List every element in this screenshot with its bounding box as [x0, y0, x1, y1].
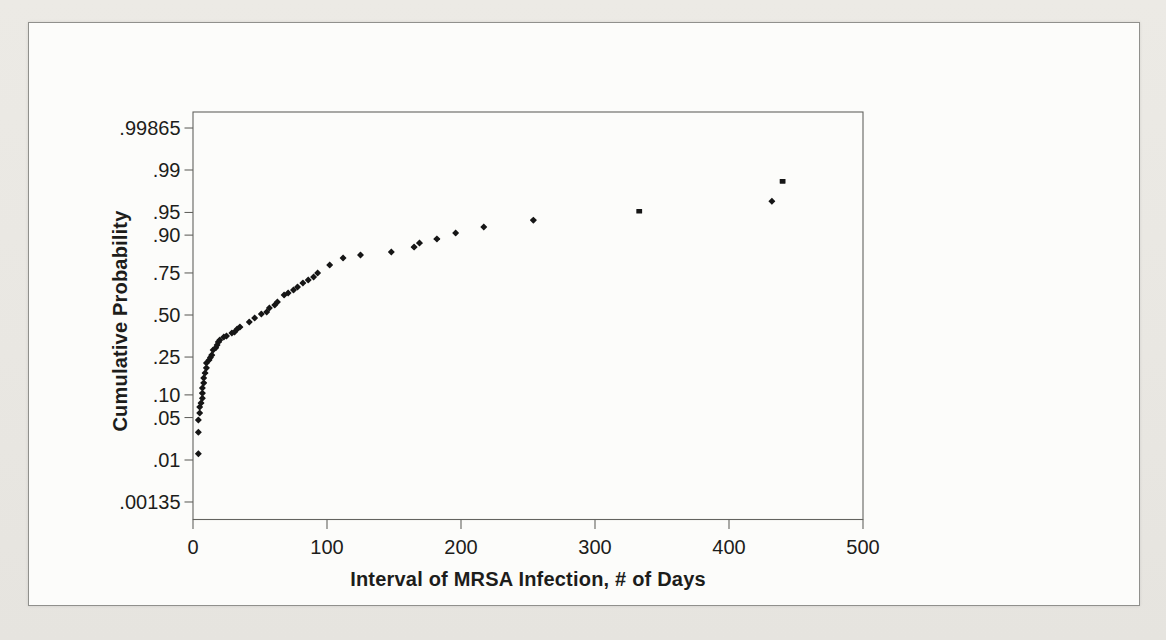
y-tick-label: .10 — [153, 384, 181, 406]
data-point — [357, 251, 364, 258]
x-axis-label: Interval of MRSA Infection, # of Days — [348, 568, 708, 592]
y-axis-label: Cumulative Probability — [109, 201, 133, 441]
data-point — [200, 374, 207, 381]
data-point — [780, 179, 786, 184]
data-point — [530, 217, 537, 224]
data-point — [433, 235, 440, 242]
x-tick-label: 100 — [310, 536, 343, 558]
data-point — [388, 248, 395, 255]
data-point — [326, 261, 333, 268]
y-tick-label: .90 — [153, 224, 181, 246]
data-point — [195, 429, 202, 436]
data-point — [768, 198, 775, 205]
data-point — [195, 450, 202, 457]
x-tick-label: 200 — [444, 536, 477, 558]
x-tick-label: 400 — [712, 536, 745, 558]
data-point — [340, 254, 347, 261]
y-tick-label: .00135 — [119, 491, 180, 513]
data-point — [416, 239, 423, 246]
data-point — [196, 409, 203, 416]
probability-plot: .00135.01.05.10.25.50.75.90.95.99.998650… — [0, 0, 1166, 640]
data-point — [195, 416, 202, 423]
data-point — [246, 319, 253, 326]
data-point — [480, 223, 487, 230]
x-tick-label: 300 — [578, 536, 611, 558]
data-point — [411, 244, 418, 251]
y-tick-label: .01 — [153, 449, 181, 471]
plot-frame — [193, 112, 863, 520]
y-tick-label: .95 — [153, 201, 181, 223]
data-point — [202, 369, 209, 376]
data-point — [636, 209, 642, 214]
y-tick-label: .75 — [153, 262, 181, 284]
y-tick-label: .05 — [153, 407, 181, 429]
y-tick-label: .99 — [153, 159, 181, 181]
data-point — [452, 229, 459, 236]
data-point — [251, 314, 258, 321]
y-tick-label: .25 — [153, 346, 181, 368]
x-tick-label: 500 — [846, 536, 879, 558]
data-point — [199, 384, 206, 391]
y-tick-label: .99865 — [119, 117, 180, 139]
x-tick-label: 0 — [187, 536, 198, 558]
y-tick-label: .50 — [153, 304, 181, 326]
